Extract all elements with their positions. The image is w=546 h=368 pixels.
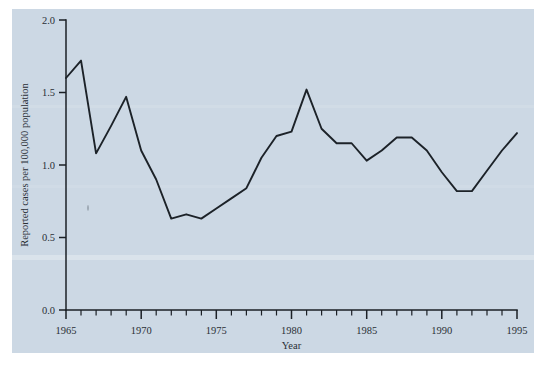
y-axis-ticks	[59, 20, 66, 310]
x-tick-label: 1975	[206, 325, 227, 336]
y-tick-label: 1.5	[42, 87, 55, 98]
x-tick-label: 1985	[356, 325, 377, 336]
y-tick-label: 2.0	[42, 15, 55, 26]
x-tick-label: 1965	[56, 325, 77, 336]
y-tick-labels: 0.0 0.5 1.0 1.5 2.0	[42, 15, 55, 316]
data-series-line	[66, 61, 517, 219]
y-tick-label: 0.0	[42, 305, 55, 316]
x-tick-labels: 1965 1970 1975 1980 1985 1990 1995	[56, 325, 528, 336]
y-axis-title: Reported cases per 100,000 population	[19, 82, 30, 246]
figure-container: 0.0 0.5 1.0 1.5 2.0 1965 1970 1975 1980 …	[0, 0, 546, 368]
x-tick-label: 1995	[507, 325, 528, 336]
x-axis-major-ticks	[66, 310, 517, 319]
x-tick-label: 1990	[431, 325, 452, 336]
y-tick-label: 1.0	[42, 160, 55, 171]
x-tick-label: 1970	[131, 325, 152, 336]
x-axis-title: Year	[282, 340, 302, 351]
y-tick-label: 0.5	[42, 232, 55, 243]
chart-plot: 0.0 0.5 1.0 1.5 2.0 1965 1970 1975 1980 …	[0, 0, 546, 368]
x-tick-label: 1980	[281, 325, 302, 336]
